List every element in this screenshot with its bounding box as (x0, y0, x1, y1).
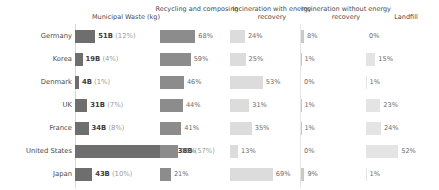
landfill-value: 15% (378, 55, 393, 64)
incineration-with-energy-bar[interactable] (230, 122, 252, 135)
recycling-bar[interactable] (160, 53, 191, 66)
incineration-without-energy-value: 0% (304, 78, 314, 87)
landfill-value: 1% (370, 170, 380, 179)
recycling-bar[interactable] (160, 99, 183, 112)
landfill-value: 1% (370, 78, 380, 87)
country-label-korea: Korea (0, 55, 72, 64)
landfill-bar[interactable] (366, 53, 375, 66)
municipal-waste-group: 31B (7%) (75, 99, 123, 112)
incineration-with-energy-value: 69% (276, 170, 291, 179)
recycling-bar-group: 35% (160, 145, 196, 158)
landfill-value: 23% (383, 101, 398, 110)
incineration-without-energy-bar[interactable] (301, 168, 304, 181)
incineration-with-energy-bar-group: 69% (230, 168, 290, 181)
incineration-with-energy-bar[interactable] (230, 53, 246, 66)
recycling-bar-group: 59% (160, 53, 208, 66)
recycling-bar-group: 44% (160, 99, 201, 112)
landfill-value: 0% (369, 32, 379, 41)
incineration-with-energy-bar[interactable] (230, 30, 245, 43)
municipal-waste-group: 19B (4%) (75, 53, 118, 66)
municipal-waste-group: 51B (12%) (75, 30, 136, 43)
incineration-without-energy-value: 1% (304, 124, 314, 133)
country-label-japan: Japan (0, 170, 72, 179)
chart-row: United States238B (57%)35%13%0%52% (0, 141, 439, 163)
incineration-with-energy-bar[interactable] (230, 99, 249, 112)
municipal-waste-bar[interactable] (75, 168, 92, 181)
incineration-without-energy-bar-group: 8% (301, 30, 318, 43)
incineration-without-energy-value: 1% (304, 101, 314, 110)
recycling-value: 68% (198, 32, 213, 41)
incineration-without-energy-bar[interactable] (301, 30, 304, 43)
municipal-waste-value: 43B (10%) (95, 170, 132, 179)
landfill-bar-group: 24% (366, 122, 399, 135)
landfill-bar[interactable] (366, 76, 367, 89)
incineration-with-energy-bar-group: 53% (230, 76, 281, 89)
municipal-waste-value: 34B (8%) (92, 124, 125, 133)
landfill-bar-group: 1% (366, 168, 380, 181)
incineration-with-energy-bar-group: 13% (230, 145, 256, 158)
landfill-bar[interactable] (366, 99, 380, 112)
chart-row: France34B (8%)41%35%1%24% (0, 118, 439, 140)
incineration-without-energy-bar-group: 1% (301, 99, 315, 112)
incineration-without-energy-bar-group: 0% (301, 76, 314, 89)
municipal-waste-bar[interactable] (75, 30, 95, 43)
incineration-with-energy-value: 35% (255, 124, 270, 133)
municipal-waste-bar[interactable] (75, 53, 83, 66)
incineration-without-energy-value: 8% (307, 32, 317, 41)
country-label-uk: UK (0, 101, 72, 110)
municipal-waste-group: 34B (8%) (75, 122, 124, 135)
recycling-value: 21% (174, 170, 189, 179)
incineration-with-energy-bar-group: 25% (230, 53, 263, 66)
recycling-bar[interactable] (160, 122, 181, 135)
incineration-with-energy-value: 13% (241, 147, 256, 156)
landfill-bar-group: 23% (366, 99, 398, 112)
municipal-waste-value: 51B (12%) (98, 32, 135, 41)
recycling-bar-group: 21% (160, 168, 189, 181)
incineration-with-energy-bar[interactable] (230, 168, 273, 181)
recycling-bar[interactable] (160, 168, 171, 181)
incineration-with-energy-bar[interactable] (230, 76, 263, 89)
country-label-france: France (0, 124, 72, 133)
recycling-bar[interactable] (160, 30, 195, 43)
recycling-value: 59% (194, 55, 209, 64)
landfill-value: 24% (384, 124, 399, 133)
municipal-waste-bar[interactable] (75, 145, 170, 158)
column-header-incineration-without-energy-recovery: Incineration without energy recovery (300, 5, 392, 21)
incineration-without-energy-bar-group: 1% (301, 122, 315, 135)
municipal-waste-bar[interactable] (75, 122, 89, 135)
chart-row: Korea19B (4%)59%25%1%15% (0, 49, 439, 71)
municipal-waste-group: 43B (10%) (75, 168, 132, 181)
recycling-value: 46% (187, 78, 202, 87)
incineration-without-energy-bar-group: 9% (301, 168, 318, 181)
country-label-germany: Germany (0, 32, 72, 41)
recycling-bar[interactable] (160, 145, 178, 158)
incineration-with-energy-value: 31% (252, 101, 267, 110)
landfill-bar[interactable] (366, 122, 381, 135)
incineration-with-energy-bar-group: 31% (230, 99, 267, 112)
landfill-bar-group: 52% (366, 145, 416, 158)
recycling-bar[interactable] (160, 76, 184, 89)
chart-row: Germany51B (12%)68%24%8%0% (0, 26, 439, 48)
country-label-denmark: Denmark (0, 78, 72, 87)
municipal-waste-value: 19B (4%) (86, 55, 119, 64)
municipal-waste-bar[interactable] (75, 76, 79, 89)
incineration-with-energy-value: 53% (266, 78, 281, 87)
landfill-value: 52% (401, 147, 416, 156)
incineration-without-energy-bar-group: 0% (301, 145, 314, 158)
incineration-with-energy-bar[interactable] (230, 145, 238, 158)
municipal-waste-bar[interactable] (75, 99, 87, 112)
incineration-without-energy-value: 9% (307, 170, 317, 179)
incineration-with-energy-value: 24% (248, 32, 263, 41)
municipal-waste-value: 31B (7%) (90, 101, 123, 110)
municipal-waste-group: 4B (1%) (75, 76, 110, 89)
landfill-bar[interactable] (366, 168, 367, 181)
municipal-waste-value: 4B (1%) (82, 78, 110, 87)
landfill-bar-group: 0% (366, 30, 379, 43)
recycling-value: 41% (184, 124, 199, 133)
recycling-value: 44% (186, 101, 201, 110)
landfill-bar[interactable] (366, 145, 398, 158)
incineration-without-energy-value: 1% (304, 55, 314, 64)
recycling-value: 35% (181, 147, 196, 156)
incineration-without-energy-bar-group: 1% (301, 53, 315, 66)
chart-row: UK31B (7%)44%31%1%23% (0, 95, 439, 117)
